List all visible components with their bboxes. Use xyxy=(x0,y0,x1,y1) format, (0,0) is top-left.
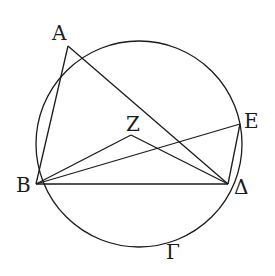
circle-gamma xyxy=(36,41,242,247)
label-delta: Δ xyxy=(234,175,248,199)
segment-a-delta xyxy=(68,46,228,184)
label-e: E xyxy=(244,109,259,133)
segment-b-z xyxy=(36,135,131,184)
label-gamma: Γ xyxy=(166,240,180,264)
label-z: Z xyxy=(126,112,140,136)
geometry-diagram: A B Δ E Z Γ xyxy=(0,0,275,276)
label-a: A xyxy=(51,21,67,45)
label-b: B xyxy=(16,173,31,197)
